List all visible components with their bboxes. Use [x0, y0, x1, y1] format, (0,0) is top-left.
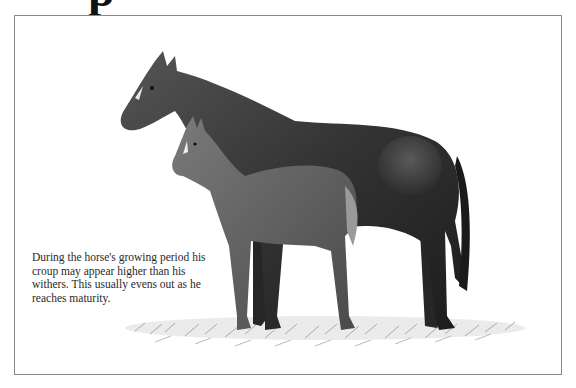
illustration-frame: During the horse's growing period his cr…	[14, 15, 562, 375]
grass	[125, 316, 525, 346]
horse-illustration	[15, 16, 563, 376]
foal-eye	[193, 142, 196, 145]
mare-eye	[150, 86, 154, 90]
caption: During the horse's growing period his cr…	[32, 251, 222, 305]
mare-hip-highlight	[378, 136, 442, 196]
page-heading-fragment: p	[88, 0, 115, 14]
